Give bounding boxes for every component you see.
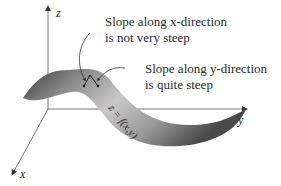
x-axis-label: x: [19, 167, 26, 181]
tangent-point: [83, 85, 85, 87]
x-axis: [13, 109, 48, 173]
z-axis-label: z: [55, 6, 61, 20]
annotation-slope-y-line1: Slope along y-direction: [145, 61, 268, 76]
annotation-slope-x-line2: is not very steep: [105, 30, 190, 45]
annotation-slope-x-line1: Slope along x-direction: [105, 14, 228, 29]
y-axis-label: y: [237, 113, 244, 127]
tangent-point: [97, 85, 99, 87]
surface-diagram: z = f(x,y) Slope along x-direction is no…: [0, 0, 281, 186]
annotation-slope-y-line2: is quite steep: [145, 77, 213, 92]
